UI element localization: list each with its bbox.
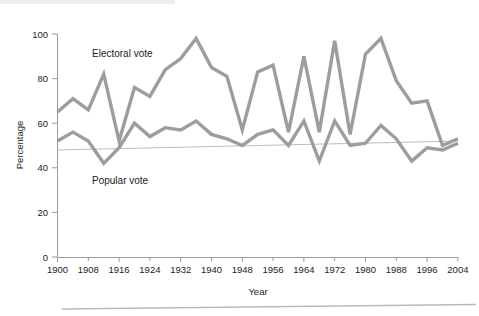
ytick-label-60: 60 <box>37 118 48 129</box>
series-annotation-electoral-vote: Electoral vote <box>92 48 153 59</box>
xtick-label-2004: 2004 <box>447 264 468 275</box>
page-bottom-rule <box>62 305 476 310</box>
xtick-label-1916: 1916 <box>109 264 130 275</box>
xtick-label-1924: 1924 <box>139 264 160 275</box>
series-annotation-popular-vote: Popular vote <box>92 175 149 186</box>
ytick-label-0: 0 <box>43 252 48 263</box>
ytick-label-40: 40 <box>37 162 48 173</box>
ytick-label-100: 100 <box>32 29 48 40</box>
xtick-label-1956: 1956 <box>263 264 284 275</box>
y-axis-title: Percentage <box>14 121 25 170</box>
x-axis: 1900 1908 1916 1924 1932 1940 1948 1956 … <box>47 258 469 298</box>
xtick-label-1964: 1964 <box>293 264 314 275</box>
x-axis-title: Year <box>248 286 267 297</box>
scan-artifact-top <box>0 0 175 4</box>
y-axis: 100 80 60 40 20 0 Percentage <box>14 29 58 263</box>
chart-canvas: 100 80 60 40 20 0 Percentage 1900 <box>0 0 479 316</box>
xtick-label-1908: 1908 <box>78 264 99 275</box>
xtick-label-1948: 1948 <box>232 264 253 275</box>
xtick-label-1940: 1940 <box>201 264 222 275</box>
xtick-label-1972: 1972 <box>324 264 345 275</box>
xtick-label-1900: 1900 <box>47 264 68 275</box>
xtick-label-1932: 1932 <box>170 264 191 275</box>
xtick-label-1996: 1996 <box>417 264 438 275</box>
ytick-label-80: 80 <box>37 73 48 84</box>
chart-figure: 100 80 60 40 20 0 Percentage 1900 <box>0 0 479 316</box>
xtick-label-1980: 1980 <box>355 264 376 275</box>
xtick-label-1988: 1988 <box>386 264 407 275</box>
ytick-label-20: 20 <box>37 207 48 218</box>
